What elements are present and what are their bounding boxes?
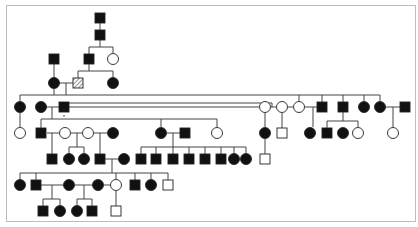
female-affected-symbol <box>338 128 349 139</box>
female-unaffected-symbol <box>111 180 122 191</box>
female-affected-symbol <box>108 128 119 139</box>
female-affected-symbol <box>55 206 66 217</box>
male-affected-symbol <box>151 154 161 164</box>
male-affected-symbol <box>36 128 46 138</box>
individuals: * <box>15 13 411 217</box>
male-unaffected-symbol <box>260 154 270 164</box>
female-unaffected-symbol <box>277 102 288 113</box>
male-affected-symbol <box>49 54 59 64</box>
relationship-lines <box>20 18 405 211</box>
male-affected-symbol <box>47 154 57 164</box>
male-affected-symbol <box>338 102 348 112</box>
male-affected-symbol <box>130 180 140 190</box>
female-unaffected-symbol <box>15 128 26 139</box>
female-unaffected-symbol <box>212 128 223 139</box>
female-unaffected-symbol <box>294 102 305 113</box>
female-unaffected-symbol <box>388 128 399 139</box>
male-affected-symbol <box>168 154 178 164</box>
female-affected-symbol <box>64 180 75 191</box>
male-affected-symbol <box>322 128 332 138</box>
male-affected-symbol <box>400 102 410 112</box>
female-affected-symbol <box>260 128 271 139</box>
male-affected-symbol <box>216 154 226 164</box>
female-affected-symbol <box>36 102 47 113</box>
male-affected-symbol <box>317 102 327 112</box>
female-unaffected-symbol <box>353 128 364 139</box>
female-affected-symbol <box>72 206 83 217</box>
male-affected-symbol <box>200 154 210 164</box>
male-affected-symbol <box>38 206 48 216</box>
male-unaffected-symbol <box>277 128 287 138</box>
female-affected-symbol <box>229 154 240 165</box>
male-carrier-symbol <box>73 78 83 88</box>
female-affected-symbol <box>156 128 167 139</box>
female-affected-symbol <box>49 78 60 89</box>
female-affected-symbol <box>79 154 90 165</box>
female-unaffected-symbol <box>60 128 71 139</box>
female-affected-symbol <box>15 102 26 113</box>
female-unaffected-symbol <box>260 102 271 113</box>
male-affected-symbol <box>95 13 105 23</box>
female-affected-symbol <box>93 180 104 191</box>
male-affected-symbol <box>59 102 69 112</box>
female-affected-symbol <box>119 154 130 165</box>
male-affected-symbol <box>95 30 105 40</box>
male-affected-symbol <box>180 128 190 138</box>
pedigree-chart: * <box>0 0 418 227</box>
male-unaffected-symbol <box>111 206 121 216</box>
male-affected-symbol <box>136 154 146 164</box>
female-unaffected-symbol <box>108 54 119 65</box>
male-unaffected-symbol <box>163 180 173 190</box>
female-affected-symbol <box>241 154 252 165</box>
male-affected-symbol <box>84 54 94 64</box>
female-affected-symbol <box>305 128 316 139</box>
male-affected-symbol <box>184 154 194 164</box>
male-affected-symbol <box>95 154 105 164</box>
female-affected-symbol <box>64 154 75 165</box>
female-affected-symbol <box>15 180 26 191</box>
male-affected-symbol <box>87 206 97 216</box>
female-affected-symbol <box>108 78 119 89</box>
female-affected-symbol <box>146 180 157 191</box>
female-unaffected-symbol <box>83 128 94 139</box>
female-affected-symbol <box>359 102 370 113</box>
female-affected-symbol <box>375 102 386 113</box>
male-affected-symbol <box>31 180 41 190</box>
